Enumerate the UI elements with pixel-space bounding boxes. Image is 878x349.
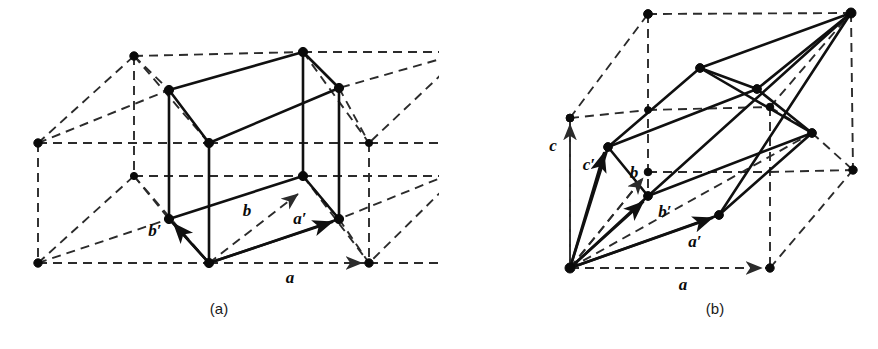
vector-a-prime-panel-a [209, 222, 332, 263]
vector-label-b-prime: b′ [658, 202, 671, 221]
vector-label-a-prime: a′ [293, 209, 306, 228]
vector-label-a-prime: a′ [688, 232, 701, 251]
lattice-nodes-a [34, 47, 439, 267]
vector-label-c: c [549, 136, 557, 155]
vector-label-a: a [679, 275, 688, 294]
vector-label-b: b [243, 201, 252, 220]
vector-b-panel-a [209, 194, 298, 263]
diagram-panel-a: a b a′ b′ (a) [0, 0, 439, 349]
vector-label-a: a [286, 268, 295, 287]
panel-caption-b: (b) [706, 300, 724, 317]
panel-caption-a: (a) [210, 300, 228, 317]
vector-b-prime-panel-a [174, 224, 209, 263]
vector-label-b: b [630, 163, 639, 182]
figure-root: a b a′ b′ (a) [0, 0, 878, 349]
vector-label-c-prime: c′ [583, 155, 595, 174]
diagram-panel-b: a c b a′ b′ c′ (b) [439, 0, 878, 349]
vector-label-b-prime: b′ [148, 221, 161, 240]
dashed-lattice-frame-a [38, 52, 439, 263]
primitive-cell-outline-a [169, 52, 339, 263]
